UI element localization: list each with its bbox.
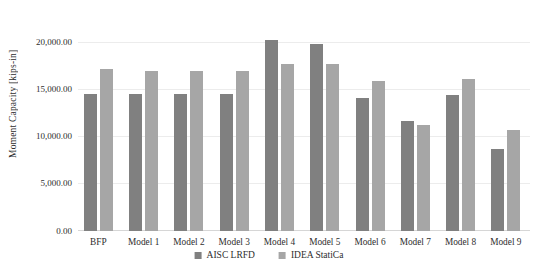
bar-aisc-lrfd — [491, 149, 504, 231]
bar-aisc-lrfd — [174, 94, 187, 231]
bar-cluster: Model 8 — [444, 79, 478, 231]
bar-idea-statica — [190, 71, 203, 231]
y-tick-label: 10,000.00 — [36, 131, 72, 142]
legend: AISC LRFDIDEA StatiCa — [195, 250, 344, 260]
x-category-label: Model 8 — [445, 237, 476, 247]
y-tick-label: 20,000.00 — [36, 37, 72, 48]
x-category-label: Model 2 — [173, 237, 204, 247]
bar-cluster: Model 9 — [489, 130, 523, 231]
bar-cluster: Model 1 — [127, 71, 161, 231]
bar-cluster: Model 5 — [308, 44, 342, 231]
x-category-label: Model 5 — [309, 237, 340, 247]
legend-item-aisc-lrfd: AISC LRFD — [195, 250, 255, 260]
x-category-label: Model 7 — [400, 237, 431, 247]
plot-area: BFPModel 1Model 2Model 3Model 4Model 5Mo… — [78, 28, 530, 231]
bar-aisc-lrfd — [129, 94, 142, 231]
bar-cluster: BFP — [81, 69, 115, 231]
x-category-label: Model 6 — [354, 237, 385, 247]
y-tick-label: 0.00 — [56, 226, 72, 237]
bar-idea-statica — [145, 71, 158, 231]
bar-aisc-lrfd — [265, 40, 278, 231]
bar-cluster: Model 7 — [398, 121, 432, 231]
y-tick-label: 15,000.00 — [36, 84, 72, 95]
x-category-label: Model 4 — [264, 237, 295, 247]
x-category-label: Model 9 — [490, 237, 521, 247]
bar-aisc-lrfd — [446, 95, 459, 231]
legend-swatch-icon — [279, 252, 286, 259]
y-tick-label: 5,000.00 — [41, 178, 73, 189]
bar-aisc-lrfd — [401, 121, 414, 231]
y-axis-ticks: 0.005,000.0010,000.0015,000.0020,000.00 — [0, 28, 72, 231]
x-category-label: Model 1 — [128, 237, 159, 247]
bar-idea-statica — [236, 71, 249, 231]
bar-idea-statica — [326, 64, 339, 231]
bar-idea-statica — [507, 130, 520, 231]
x-category-label: BFP — [90, 237, 107, 247]
bar-idea-statica — [417, 125, 430, 232]
bar-cluster: Model 2 — [172, 71, 206, 231]
bar-cluster: Model 6 — [353, 81, 387, 231]
bar-cluster: Model 4 — [262, 40, 296, 231]
legend-item-idea-statica: IDEA StatiCa — [279, 250, 344, 260]
bar-idea-statica — [281, 64, 294, 231]
bar-aisc-lrfd — [220, 94, 233, 231]
bar-aisc-lrfd — [84, 94, 97, 231]
bar-idea-statica — [100, 69, 113, 231]
bar-aisc-lrfd — [356, 98, 369, 231]
legend-swatch-icon — [195, 252, 202, 259]
legend-label: AISC LRFD — [207, 250, 255, 260]
bar-idea-statica — [372, 81, 385, 231]
bar-aisc-lrfd — [310, 44, 323, 231]
gridline — [78, 42, 530, 43]
bar-cluster: Model 3 — [217, 71, 251, 231]
x-category-label: Model 3 — [219, 237, 250, 247]
legend-label: IDEA StatiCa — [291, 250, 344, 260]
moment-capacity-bar-chart: Moment Capacity [kips-in] 0.005,000.0010… — [0, 0, 538, 279]
bar-idea-statica — [462, 79, 475, 231]
